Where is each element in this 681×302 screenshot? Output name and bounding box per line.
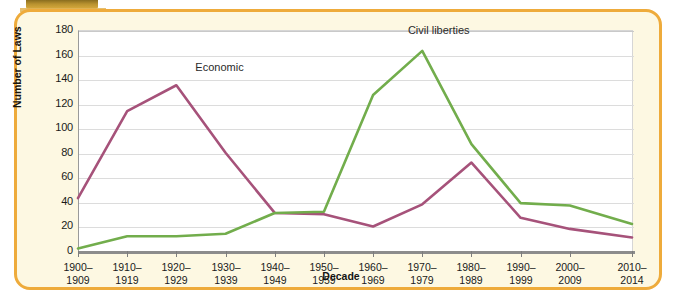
x-tick-mark xyxy=(324,251,325,257)
x-tick-mark xyxy=(226,251,227,257)
y-tick-label: 120 xyxy=(27,97,73,109)
x-tick-mark xyxy=(373,251,374,257)
x-tick-mark xyxy=(422,251,423,257)
x-tick-mark xyxy=(127,251,128,257)
series-line-economic xyxy=(78,85,632,237)
y-tick-label: 80 xyxy=(27,146,73,158)
x-tick-mark xyxy=(521,251,522,257)
x-axis-label: Decade xyxy=(17,270,665,282)
y-tick-label: 100 xyxy=(27,121,73,133)
y-axis-label: Number of Laws xyxy=(11,26,23,108)
y-tick-label: 160 xyxy=(27,48,73,60)
x-tick-mark xyxy=(471,251,472,257)
series-line-civil-liberties xyxy=(78,51,632,249)
series-annotation-economic: Economic xyxy=(195,61,243,73)
y-axis-tick-labels: 020406080100120140160180 xyxy=(25,30,73,251)
series-annotation-civil-liberties: Civil liberties xyxy=(408,24,470,36)
y-tick-label: 180 xyxy=(27,23,73,35)
plot-frame: 1900–19091910–19191920–19291930–19391940… xyxy=(78,30,633,251)
x-tick-mark xyxy=(632,251,633,257)
figure-root: Number of Laws 020406080100120140160180 … xyxy=(0,0,681,302)
y-tick-label: 60 xyxy=(27,170,73,182)
y-tick-label: 40 xyxy=(27,195,73,207)
x-axis-line xyxy=(78,251,635,254)
x-tick-mark xyxy=(176,251,177,257)
chart-panel: Number of Laws 020406080100120140160180 … xyxy=(14,9,662,290)
x-tick-mark xyxy=(275,251,276,257)
chart-lines xyxy=(78,30,633,251)
x-tick-mark xyxy=(570,251,571,257)
y-tick-label: 140 xyxy=(27,72,73,84)
x-tick-mark xyxy=(78,251,79,257)
y-tick-label: 20 xyxy=(27,219,73,231)
y-tick-label: 0 xyxy=(27,244,73,256)
